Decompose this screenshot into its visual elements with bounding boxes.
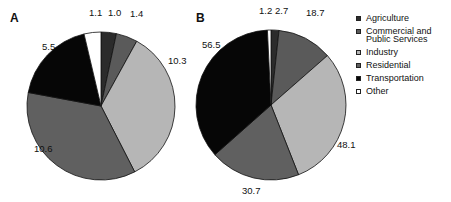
legend-item-transportation: Transportation [355, 74, 451, 83]
value-label: 48.1 [337, 139, 356, 150]
legend-swatch-icon [356, 50, 361, 55]
value-label: 1.2 [259, 5, 272, 16]
value-label: 1.1 [89, 7, 102, 18]
value-label: 56.5 [202, 39, 221, 50]
legend-label: Residential [366, 60, 411, 70]
legend-item-other: Other [355, 87, 451, 96]
legend-swatch-icon [356, 89, 361, 94]
value-label: 1.0 [108, 7, 121, 18]
legend-swatch-icon [356, 63, 361, 68]
pie-chart-b [196, 30, 346, 180]
legend-item-industry: Industry [355, 48, 451, 57]
panel-label-b: B [196, 11, 205, 25]
legend-label: Commercial and Public Services [366, 26, 432, 45]
legend-item-commercial: Commercial and Public Services [355, 27, 451, 44]
legend-swatch-icon [356, 29, 361, 34]
legend-label: Transportation [366, 73, 424, 83]
value-label: 10.3 [168, 55, 187, 66]
legend-swatch-icon [356, 16, 361, 21]
legend-swatch-icon [356, 76, 361, 81]
value-label: 1.4 [130, 8, 143, 19]
legend-item-agriculture: Agriculture [355, 14, 451, 23]
legend-label: Other [366, 86, 389, 96]
legend-label: Agriculture [366, 13, 409, 23]
legend-label: Industry [366, 47, 398, 57]
panel-label-a: A [10, 11, 19, 25]
legend: Agriculture Commercial and Public Servic… [355, 14, 451, 99]
value-label: 5.5 [42, 41, 55, 52]
value-label: 30.7 [242, 185, 261, 196]
value-label: 18.7 [306, 7, 325, 18]
value-label: 10.6 [34, 143, 53, 154]
value-label: 2.7 [275, 5, 288, 16]
pie-chart-a [27, 32, 175, 180]
legend-item-residential: Residential [355, 61, 451, 70]
